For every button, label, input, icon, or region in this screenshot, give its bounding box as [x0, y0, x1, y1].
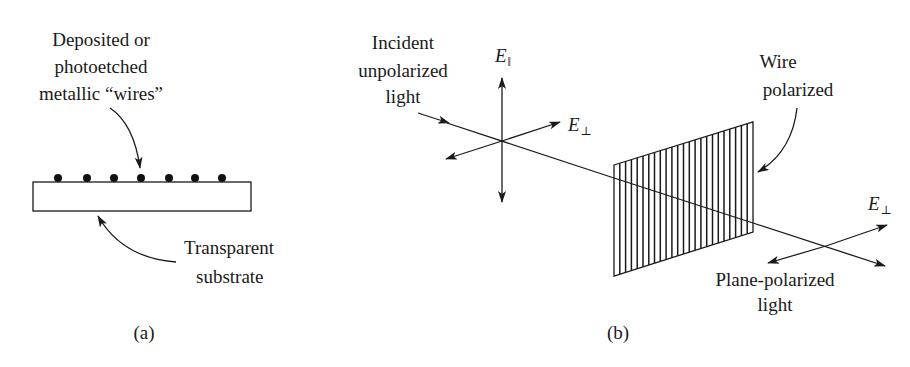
output-ray — [753, 223, 885, 266]
substrate-label-line-1: Transparent — [184, 237, 275, 258]
metallic-wires — [54, 174, 226, 182]
incident-label-line-2: unpolarized — [358, 60, 448, 81]
caption-b: (b) — [607, 322, 629, 344]
wire-dot — [110, 174, 118, 182]
e-perp-in-arrow-left — [446, 141, 502, 159]
wire-dot — [137, 174, 145, 182]
e-parallel-label: E‖ — [494, 45, 511, 69]
wire-dot — [54, 174, 62, 182]
wires-label-line-3: metallic “wires” — [39, 83, 163, 104]
incident-label-line-3: light — [386, 86, 422, 107]
polarizer-wires — [620, 124, 747, 274]
e-perp-out-arrow-left — [768, 246, 826, 263]
wire-dot — [191, 174, 199, 182]
polarizer-label-line-1: Wire — [759, 51, 796, 72]
wires-pointer-arrow — [110, 108, 140, 168]
wires-label-line-1: Deposited or — [52, 29, 150, 50]
wire-dot — [165, 174, 173, 182]
transparent-substrate — [33, 182, 251, 211]
wire-dot — [218, 174, 226, 182]
wire-grid-polarizer — [614, 122, 753, 276]
panel-b: Incident unpolarized light E‖ E⊥ Wire po… — [358, 32, 892, 344]
caption-a: (a) — [133, 322, 154, 344]
polarizer-label-line-2: polarized — [763, 79, 834, 100]
wire-grid-polarizer-figure: Deposited or photoetched metallic “wires… — [0, 0, 910, 367]
wire-dot — [83, 174, 91, 182]
output-label-line-2: light — [758, 294, 794, 315]
substrate-pointer-arrow — [98, 216, 176, 262]
substrate-label-line-2: substrate — [196, 266, 264, 287]
wires-label-line-2: photoetched — [55, 56, 148, 77]
e-perp-out-label: E⊥ — [867, 193, 892, 217]
e-perp-out-arrow-right — [826, 225, 887, 246]
panel-a: Deposited or photoetched metallic “wires… — [33, 29, 275, 344]
incident-label-line-1: Incident — [372, 32, 435, 53]
polarizer-pointer-arrow — [758, 108, 797, 172]
incident-ray-arrow — [418, 113, 449, 123]
output-label-line-1: Plane-polarized — [715, 269, 835, 290]
e-perp-in-label: E⊥ — [567, 114, 592, 138]
e-perp-in-arrow-right — [502, 122, 560, 141]
